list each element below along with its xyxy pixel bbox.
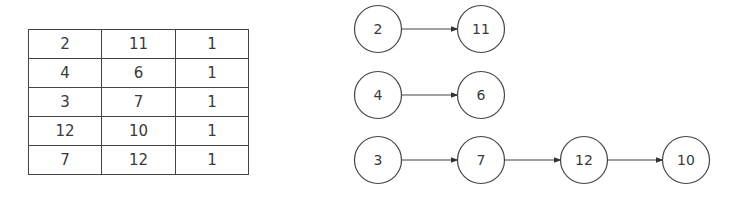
graph-node: 7 <box>458 137 505 184</box>
graph-node: 4 <box>355 72 402 119</box>
node-label: 6 <box>477 87 486 103</box>
graph-node: 10 <box>663 137 710 184</box>
graph-node: 3 <box>355 137 402 184</box>
edges <box>402 29 663 160</box>
graph-node: 12 <box>561 137 608 184</box>
node-label: 11 <box>472 21 490 37</box>
node-label: 3 <box>374 152 383 168</box>
graph-node: 11 <box>458 6 505 53</box>
node-label: 7 <box>477 152 486 168</box>
node-label: 4 <box>374 87 383 103</box>
node-label: 10 <box>677 152 695 168</box>
node-label: 2 <box>374 21 383 37</box>
graph-node: 6 <box>458 72 505 119</box>
node-label: 12 <box>575 152 593 168</box>
graph-node: 2 <box>355 6 402 53</box>
linked-list-graph: 21146371210 <box>0 0 733 199</box>
